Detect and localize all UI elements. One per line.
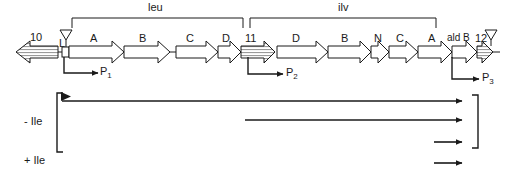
- gene-label-leuL: L: [59, 38, 65, 49]
- gene-arrow-leuC: [176, 41, 218, 63]
- gene-label-ilvA: A: [428, 33, 435, 44]
- gene-arrow-ilvC: [389, 41, 418, 63]
- gene-label-10: 10: [30, 32, 42, 43]
- promoter-P1-subscript: 1: [107, 71, 111, 80]
- gene-arrow-aldB: [452, 41, 477, 63]
- condition-label-plus-ile: + Ile: [24, 155, 45, 166]
- promoter-P3-subscript: 3: [489, 77, 493, 86]
- gene-arrow-10: [16, 41, 58, 63]
- promoter-arrow-P1: [64, 57, 98, 73]
- gene-arrow-leuD: [218, 41, 241, 63]
- gene-label-leuC: C: [186, 33, 194, 44]
- gene-arrow-ilvA: [418, 41, 452, 63]
- gene-label-aldB: ald B: [447, 33, 470, 43]
- gene-arrow-ilvN: [371, 41, 389, 63]
- condition-bracket-left-minus-ile: [57, 93, 63, 152]
- gene-label-leuA: A: [90, 33, 97, 44]
- promoter-P2-subscript: 2: [293, 72, 297, 81]
- promoter-label-P1: P1: [100, 66, 112, 80]
- gene-arrow-ilvD: [277, 41, 328, 63]
- diagram-canvas: [0, 0, 508, 181]
- gene-label-leuD: D: [222, 33, 230, 44]
- operon-bracket-leu: [72, 18, 243, 28]
- gene-arrow-leuB: [124, 41, 170, 63]
- promoter-label-P3: P3: [482, 72, 494, 86]
- condition-bracket-right-minus-ile: [472, 95, 478, 148]
- gene-label-ilvD: D: [292, 33, 300, 44]
- gene-organization-diagram: leu ilv 10 L A B C D 11 D B N C A ald B …: [0, 0, 508, 181]
- operon-bracket-ilv: [250, 18, 436, 28]
- transcript-arrow-t1: [61, 92, 462, 101]
- gene-arrow-ilvB: [328, 41, 371, 63]
- gene-arrow-11: [241, 41, 275, 63]
- gene-label-leuB: B: [139, 33, 146, 44]
- gene-label-12: 12: [475, 33, 487, 44]
- gene-label-ilvN: N: [374, 33, 382, 44]
- gene-label-11: 11: [245, 33, 256, 44]
- operon-label-ilv: ilv: [338, 2, 348, 13]
- operon-label-leu: leu: [148, 2, 163, 13]
- condition-label-minus-ile: - Ile: [24, 116, 42, 127]
- promoter-label-P2: P2: [286, 67, 298, 81]
- gene-label-ilvB: B: [341, 33, 348, 44]
- gene-label-ilvC: C: [396, 33, 404, 44]
- gene-arrow-leuA: [69, 41, 124, 63]
